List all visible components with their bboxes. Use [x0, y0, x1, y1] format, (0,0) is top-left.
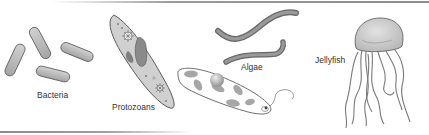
algae-illustration: [218, 12, 296, 62]
label-jellyfish: Jellyfish: [315, 55, 345, 65]
jellyfish-illustration: [345, 18, 410, 128]
protozoan-illustration: [110, 15, 174, 108]
label-bacteria: Bacteria: [37, 90, 68, 100]
organisms-figure: Bacteria Protozoans Algae Jellyfish: [0, 0, 429, 135]
euglena-illustration: [178, 68, 294, 114]
label-protozoans: Protozoans: [112, 102, 155, 112]
label-algae: Algae: [241, 62, 263, 72]
illustration: [0, 0, 429, 135]
bacteria-illustration: [3, 26, 94, 83]
